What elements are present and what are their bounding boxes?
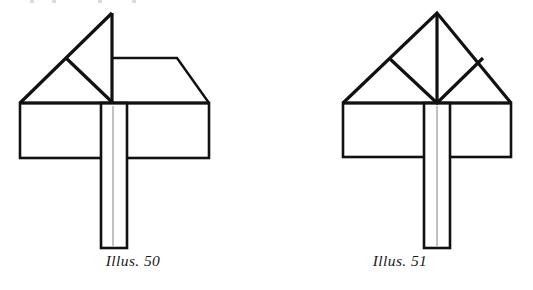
illus-50-right-roof-plane — [113, 58, 209, 103]
illus-51-drawing — [267, 0, 533, 250]
illus-50-centre-post — [101, 103, 127, 248]
illustration-page: Illus. 50 Illus. 51 — [0, 0, 533, 290]
illus-51-outer-triangle — [343, 13, 511, 103]
illus-51-caption: Illus. 51 — [267, 252, 533, 270]
illus-50-inner-fold-diagonal — [66, 58, 113, 103]
figure-illus-50: Illus. 50 — [0, 0, 266, 290]
illus-50-drawing — [0, 0, 266, 250]
figure-illus-51: Illus. 51 — [267, 0, 533, 290]
illus-50-caption: Illus. 50 — [0, 252, 266, 270]
